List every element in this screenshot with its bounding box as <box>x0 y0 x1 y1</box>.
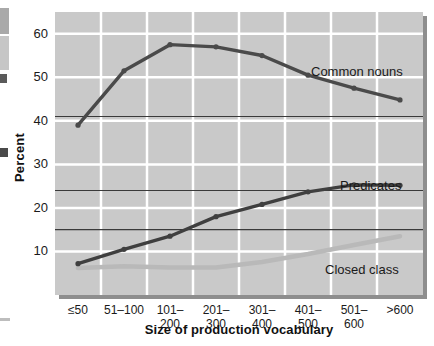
plot-area <box>55 12 423 295</box>
series-label-predicates: Predicates <box>340 178 401 193</box>
series-label-closed-class: Closed class <box>325 262 399 277</box>
y-tick-label: 50 <box>18 69 48 84</box>
plot-canvas <box>55 12 423 295</box>
x-axis-title: Size of production vocabulary <box>55 322 423 337</box>
y-tick-label: 60 <box>18 26 48 41</box>
line-chart: 102030405060 Percent ≤5051–100101–200201… <box>0 0 434 346</box>
series-label-common-nouns: Common nouns <box>311 64 403 79</box>
y-tick-label: 10 <box>18 243 48 258</box>
y-axis-title: Percent <box>12 113 27 203</box>
x-tick-label: >600 <box>377 303 423 317</box>
x-tick-label: ≤50 <box>55 303 101 317</box>
x-tick-label: 51–100 <box>101 303 147 317</box>
figure-root: 102030405060 Percent ≤5051–100101–200201… <box>0 0 434 346</box>
